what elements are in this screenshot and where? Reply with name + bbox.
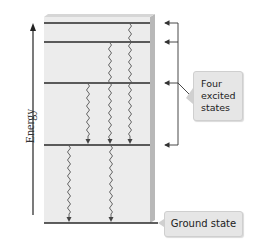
excited-states-bracket <box>165 23 190 145</box>
energy-axis-arrowhead-icon <box>30 23 36 31</box>
energy-panel <box>44 17 150 223</box>
panel-top-shade <box>44 14 155 17</box>
excited-states-callout: Four excited states <box>193 71 243 121</box>
energy-level-diagram: Energy Four excited states Ground state <box>0 0 258 251</box>
callout-line: Four <box>201 78 242 90</box>
callout-line: excited <box>201 90 242 102</box>
excited-callout-pointer <box>186 88 193 104</box>
ground-state-callout: Ground state <box>164 211 243 237</box>
energy-axis-label: Energy <box>23 101 38 151</box>
callout-line: states <box>201 102 242 114</box>
panel-side-shade <box>150 14 155 223</box>
